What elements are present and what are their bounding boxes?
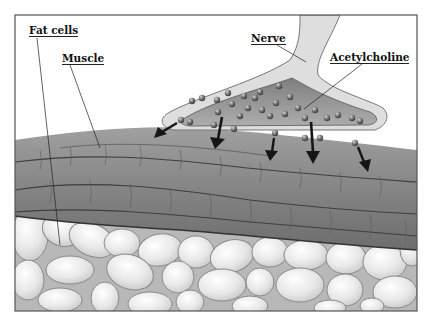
- diagram-canvas: [0, 0, 433, 326]
- label-acetylcholine: Acetylcholine: [330, 51, 409, 64]
- label-muscle: Muscle: [62, 52, 104, 65]
- label-nerve: Nerve: [251, 32, 286, 45]
- label-fat-cells: Fat cells: [29, 24, 78, 37]
